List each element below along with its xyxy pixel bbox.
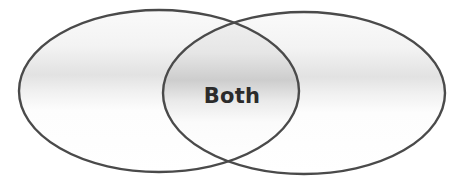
intersection-label: Both (182, 83, 282, 109)
venn-diagram: Both (0, 0, 464, 184)
